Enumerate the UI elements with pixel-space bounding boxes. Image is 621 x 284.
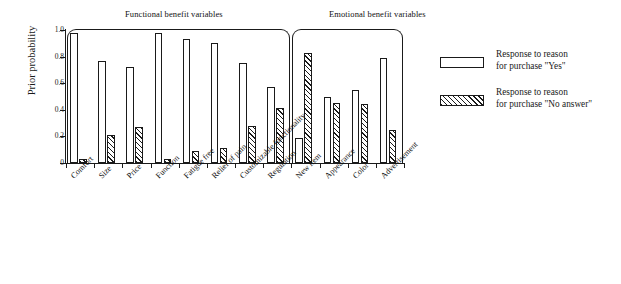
bar-chart: Functional benefit variables Emotional b… bbox=[0, 0, 621, 284]
y-axis-tick-labels: 00.20.40.60.81.0 bbox=[40, 0, 64, 284]
x-tick-mark bbox=[291, 164, 292, 168]
x-tick-mark bbox=[207, 164, 208, 168]
bar-no-answer bbox=[107, 135, 115, 163]
plot-area bbox=[66, 30, 404, 163]
bar-yes bbox=[126, 67, 134, 163]
legend-item: Response to reason for purchase "Yes" bbox=[440, 48, 621, 86]
bar-no-answer bbox=[361, 104, 369, 163]
open-rectangle-swatch bbox=[440, 57, 484, 68]
bar-yes bbox=[70, 33, 78, 163]
bar-yes bbox=[380, 58, 388, 163]
bar-yes bbox=[183, 39, 191, 163]
y-tick-mark bbox=[60, 163, 65, 164]
x-tick-mark bbox=[94, 164, 95, 168]
bar-yes bbox=[211, 43, 219, 163]
x-category-label: Price bbox=[125, 162, 143, 180]
y-tick-mark bbox=[60, 83, 65, 84]
bar-yes bbox=[295, 138, 303, 163]
x-tick-mark bbox=[404, 164, 405, 168]
y-tick-mark bbox=[60, 30, 65, 31]
x-tick-mark bbox=[66, 164, 67, 168]
bar-yes bbox=[155, 33, 163, 163]
x-category-label: Size bbox=[97, 164, 113, 180]
legend-label: Response to reason for purchase "No answ… bbox=[496, 87, 592, 110]
x-tick-mark bbox=[320, 164, 321, 168]
bar-yes bbox=[324, 97, 332, 164]
bar-no-answer bbox=[304, 53, 312, 163]
y-axis-title: Prior probability bbox=[26, 1, 37, 121]
bar-no-answer bbox=[135, 127, 143, 163]
hatched-rectangle-swatch bbox=[440, 95, 484, 106]
x-tick-mark bbox=[122, 164, 123, 168]
group-title-emotional: Emotional benefit variables bbox=[329, 9, 426, 19]
y-tick-mark bbox=[60, 110, 65, 111]
x-tick-mark bbox=[179, 164, 180, 168]
group-title-functional: Functional benefit variables bbox=[125, 9, 223, 19]
legend-label: Response to reason for purchase "Yes" bbox=[496, 49, 568, 72]
bar-yes bbox=[98, 61, 106, 163]
y-tick-mark bbox=[60, 136, 65, 137]
x-tick-mark bbox=[348, 164, 349, 168]
x-tick-mark bbox=[151, 164, 152, 168]
x-tick-mark bbox=[263, 164, 264, 168]
legend-item: Response to reason for purchase "No answ… bbox=[440, 86, 621, 124]
x-tick-mark bbox=[376, 164, 377, 168]
bar-no-answer bbox=[333, 103, 341, 163]
y-tick-mark bbox=[60, 57, 65, 58]
chart-legend: Response to reason for purchase "Yes"Res… bbox=[440, 48, 621, 124]
x-tick-mark bbox=[235, 164, 236, 168]
